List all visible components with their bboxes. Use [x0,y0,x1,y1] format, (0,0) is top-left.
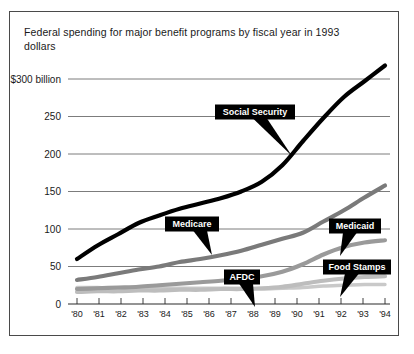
chart-figure: Federal spending for major benefit progr… [9,11,399,336]
callout-medicare: Medicare [165,217,219,256]
y-axis-tick-label: 200 [44,149,61,160]
y-axis-tick-label: 150 [44,186,61,197]
x-axis-tick-label: '82 [115,309,127,319]
x-axis-tick-label: '88 [247,309,259,319]
x-axis-tick-label: '93 [357,309,369,319]
x-axis-tick-label: '85 [181,309,193,319]
chart-plot-area: $300 billion250200150100500 '80'81'82'83… [10,12,398,335]
callout-label: Medicare [172,219,211,229]
y-axis-tick-label: 0 [55,299,61,310]
x-axis-tick-label: '87 [225,309,237,319]
x-axis-tick-label: '94 [379,309,391,319]
y-axis-labels-group: $300 billion250200150100500 [10,74,61,310]
y-axis-tick-label: $300 billion [10,74,61,85]
y-axis-tick-label: 250 [44,111,61,122]
x-axis-tick-label: '81 [93,309,105,319]
x-axis-tick-label: '89 [269,309,281,319]
x-axis-tick-label: '84 [159,309,171,319]
callout-label: Medicaid [336,221,375,231]
x-axis-tick-label: '90 [291,309,303,319]
callout-label: AFDC [230,272,255,282]
x-axis-tick-label: '80 [71,309,83,319]
callout-pointer [193,231,212,256]
x-axis-tick-label: '91 [313,309,325,319]
callout-pointer [253,119,292,157]
y-axis-tick-label: 100 [44,224,61,235]
data-series-group [77,66,385,293]
x-axis-tick-label: '83 [137,309,149,319]
callout-label: Social Security [223,107,288,117]
callout-social-security: Social Security [215,105,295,157]
x-axis-group: '80'81'82'83'84'85'86'87'88'89'90'91'92'… [71,298,391,319]
callout-label: Food Stamps [328,262,385,272]
y-axis-tick-label: 50 [50,261,62,272]
x-axis-tick-label: '92 [335,309,347,319]
x-axis-tick-label: '86 [203,309,215,319]
